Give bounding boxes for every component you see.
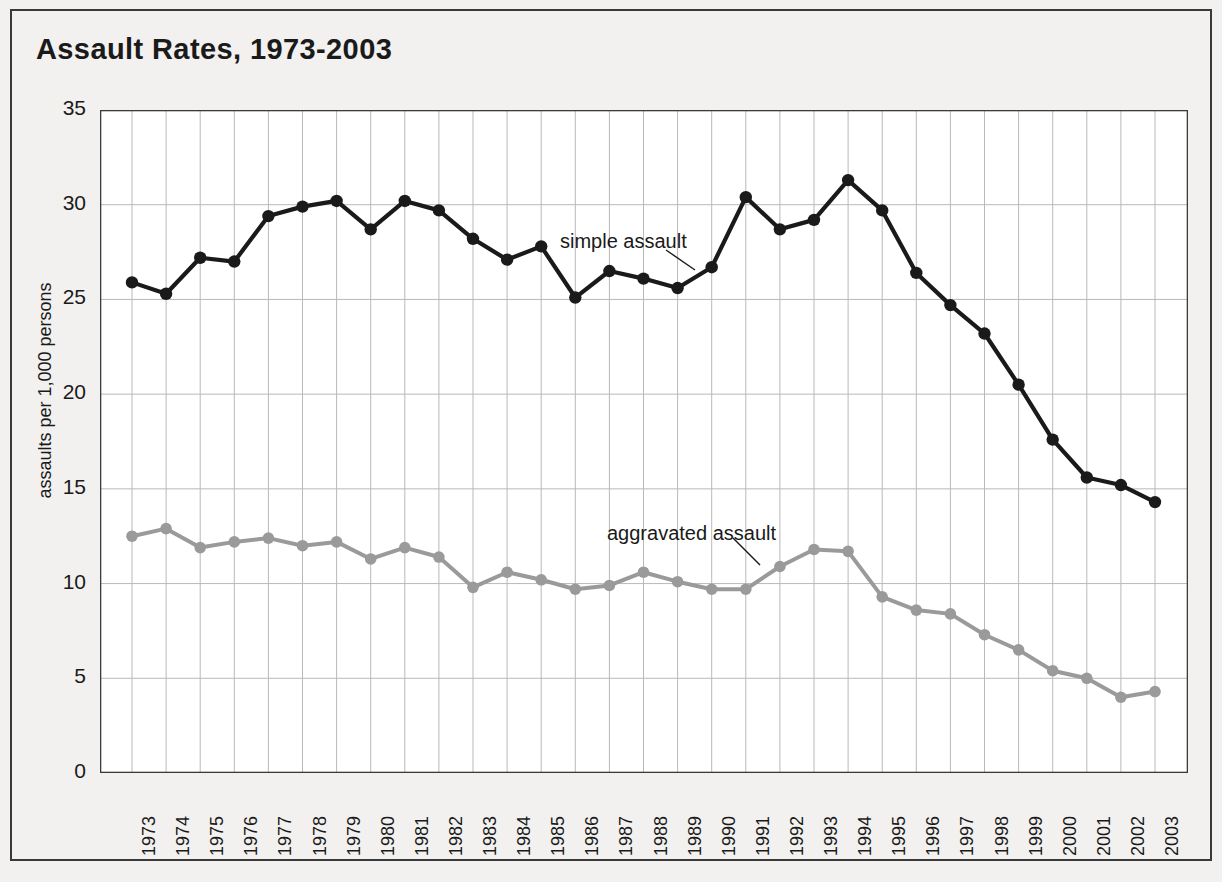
x-tick-label: 2002 <box>1128 816 1149 856</box>
x-tick-label: 2003 <box>1162 816 1183 856</box>
x-tick-label: 1994 <box>855 816 876 856</box>
data-point <box>194 542 206 554</box>
x-tick-label: 1989 <box>685 816 706 856</box>
x-tick-label: 1985 <box>548 816 569 856</box>
x-tick-label: 1999 <box>1026 816 1047 856</box>
data-point <box>808 214 820 226</box>
data-point <box>433 551 445 563</box>
y-tick-label: 0 <box>26 759 86 783</box>
data-point <box>365 553 377 565</box>
data-point <box>842 174 854 186</box>
y-tick-label: 15 <box>26 475 86 499</box>
x-tick-label: 2001 <box>1094 816 1115 856</box>
data-point <box>433 204 445 216</box>
aggravated-assault-label: aggravated assault <box>607 522 776 545</box>
data-point <box>399 195 411 207</box>
data-point <box>501 566 513 578</box>
data-point <box>570 583 582 595</box>
x-tick-label: 1977 <box>275 816 296 856</box>
data-point <box>399 542 411 554</box>
data-point <box>1047 665 1059 677</box>
data-point <box>1115 479 1127 491</box>
data-point <box>365 223 377 235</box>
data-point <box>808 544 820 556</box>
data-point <box>911 604 923 616</box>
data-point <box>229 536 241 548</box>
x-tick-label: 1976 <box>241 816 262 856</box>
data-point <box>706 261 718 273</box>
y-tick-label: 25 <box>26 285 86 309</box>
chart-canvas <box>100 110 1188 773</box>
data-point <box>194 252 206 264</box>
data-point <box>1081 471 1093 483</box>
x-tick-label: 1984 <box>514 816 535 856</box>
data-point <box>1013 644 1025 656</box>
data-point <box>535 240 547 252</box>
x-tick-label: 1998 <box>992 816 1013 856</box>
x-tick-label: 1988 <box>651 816 672 856</box>
data-point <box>876 591 888 603</box>
x-tick-label: 1996 <box>923 816 944 856</box>
data-point <box>501 253 513 265</box>
data-point <box>1149 686 1161 698</box>
x-axis-tick-labels: 1973197419751976197719781979198019811982… <box>100 778 1188 868</box>
data-point <box>262 210 274 222</box>
data-point <box>979 629 991 641</box>
x-tick-label: 1986 <box>582 816 603 856</box>
x-tick-label: 1987 <box>616 816 637 856</box>
x-tick-label: 1982 <box>446 816 467 856</box>
data-point <box>569 291 581 303</box>
x-tick-label: 1978 <box>310 816 331 856</box>
data-point <box>467 582 479 594</box>
x-tick-label: 1983 <box>480 816 501 856</box>
data-point <box>331 536 343 548</box>
x-tick-label: 1974 <box>173 816 194 856</box>
data-point <box>706 583 718 595</box>
data-point <box>910 267 922 279</box>
x-tick-label: 1991 <box>753 816 774 856</box>
data-point <box>263 532 275 544</box>
data-point <box>1115 691 1127 703</box>
x-tick-label: 1995 <box>889 816 910 856</box>
data-point <box>1149 496 1161 508</box>
data-point <box>740 191 752 203</box>
data-point <box>978 327 990 339</box>
data-point <box>228 255 240 267</box>
data-point <box>330 195 342 207</box>
x-tick-label: 2000 <box>1060 816 1081 856</box>
y-tick-label: 30 <box>26 191 86 215</box>
x-tick-label: 1992 <box>787 816 808 856</box>
data-point <box>1012 378 1024 390</box>
x-tick-label: 1975 <box>207 816 228 856</box>
x-tick-label: 1990 <box>719 816 740 856</box>
plot-area <box>100 110 1188 773</box>
y-tick-label: 10 <box>26 570 86 594</box>
x-tick-label: 1997 <box>957 816 978 856</box>
x-tick-label: 1973 <box>139 816 160 856</box>
x-tick-label: 1981 <box>412 816 433 856</box>
chart-title: Assault Rates, 1973-2003 <box>36 33 392 66</box>
data-point <box>774 223 786 235</box>
x-tick-label: 1979 <box>344 816 365 856</box>
data-point <box>1081 672 1093 684</box>
y-tick-label: 5 <box>26 664 86 688</box>
data-point <box>160 523 172 535</box>
y-tick-label: 20 <box>26 380 86 404</box>
y-axis-tick-labels: 05101520253035 <box>26 110 86 773</box>
data-point <box>842 546 854 558</box>
data-point <box>604 580 616 592</box>
data-point <box>740 583 752 595</box>
data-point <box>637 272 649 284</box>
data-point <box>160 288 172 300</box>
data-point <box>126 530 138 542</box>
assault-rates-figure: Assault Rates, 1973-2003 assaults per 1,… <box>0 0 1222 882</box>
data-point <box>638 566 650 578</box>
data-point <box>126 276 138 288</box>
data-point <box>297 540 309 552</box>
simple-assault-label: simple assault <box>560 230 687 253</box>
y-tick-label: 35 <box>26 96 86 120</box>
data-point <box>876 204 888 216</box>
data-point <box>774 561 786 573</box>
data-point <box>672 576 684 588</box>
x-tick-label: 1980 <box>378 816 399 856</box>
